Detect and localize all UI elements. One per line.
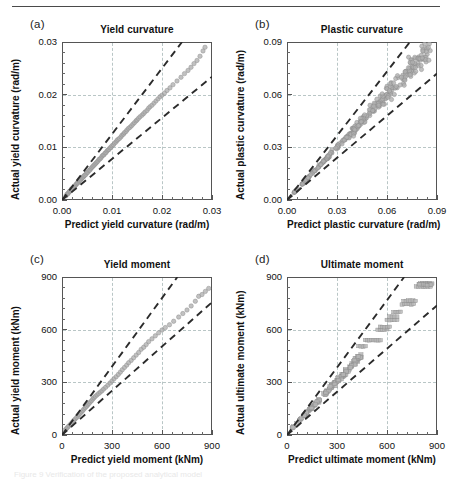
- data-point: [291, 425, 295, 429]
- data-point: [378, 339, 382, 342]
- data-point: [333, 382, 337, 386]
- data-point: [356, 355, 360, 359]
- data-point: [328, 385, 332, 389]
- data-point: [341, 373, 345, 377]
- figure-caption: Figure 9 Verification of the proposed an…: [14, 470, 434, 482]
- plot-data-layer-d: [0, 0, 449, 485]
- data-point: [413, 299, 417, 302]
- data-point: [352, 358, 356, 362]
- data-point: [398, 310, 402, 313]
- data-point: [395, 315, 399, 318]
- data-point: [336, 378, 340, 382]
- data-point: [348, 366, 352, 370]
- data-point: [425, 284, 429, 287]
- data-point: [324, 391, 328, 395]
- reference-line-upper-bound: [287, 277, 404, 435]
- panel-d: (d)Ultimate moment03006009000300600900Pr…: [0, 0, 449, 485]
- data-point: [363, 345, 367, 348]
- scatter-points: [290, 281, 434, 430]
- data-point: [313, 403, 317, 407]
- data-point: [395, 318, 399, 321]
- data-point: [309, 406, 313, 410]
- data-point: [429, 283, 433, 286]
- data-point: [417, 283, 421, 286]
- data-point: [388, 325, 392, 328]
- reference-line-lower-bound: [287, 305, 437, 435]
